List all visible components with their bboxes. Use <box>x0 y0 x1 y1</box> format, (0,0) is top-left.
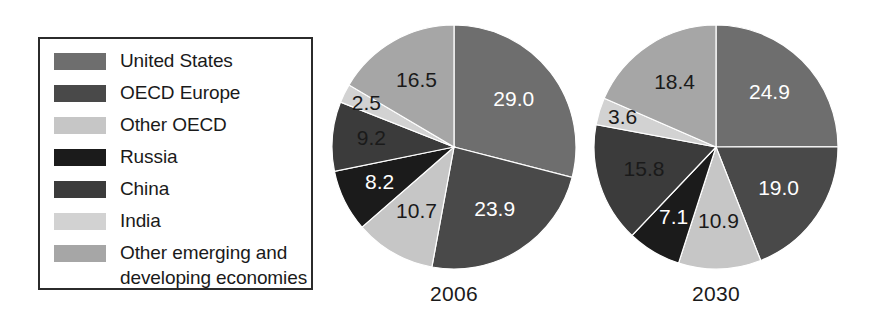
legend-item-oecd-europe: OECD Europe <box>40 80 311 112</box>
pie-slice-label: 2.5 <box>352 91 381 114</box>
legend-swatch-russia <box>54 149 106 166</box>
pie-slice-label: 16.5 <box>396 68 437 91</box>
legend-item-other-emerging: Other emerging and developing economies <box>40 240 311 296</box>
pie-slice-label: 3.6 <box>608 105 637 128</box>
legend-label-russia: Russia <box>120 144 177 169</box>
legend-item-india: India <box>40 208 311 240</box>
legend-label-other-emerging: Other emerging and developing economies <box>120 240 307 290</box>
pie-slice-label: 8.2 <box>365 170 394 193</box>
pie-caption-2006: 2006 <box>331 282 577 306</box>
pie-slice-label: 10.9 <box>698 209 739 232</box>
legend-swatch-oecd-europe <box>54 85 106 102</box>
pie-chart-2006: 29.023.910.78.29.22.516.5 <box>331 24 577 270</box>
pie-slice-label: 19.0 <box>758 176 799 199</box>
legend-label-other-oecd: Other OECD <box>120 112 227 137</box>
pie-svg-2006: 29.023.910.78.29.22.516.5 <box>331 24 577 270</box>
pie-slice-label: 10.7 <box>396 199 437 222</box>
pie-slice-label: 23.9 <box>474 197 515 220</box>
legend-item-united-states: United States <box>40 48 311 80</box>
pie-caption-2030: 2030 <box>593 282 839 306</box>
legend-label-china: China <box>120 176 169 201</box>
legend: United States OECD Europe Other OECD Rus… <box>38 37 313 290</box>
legend-swatch-china <box>54 181 106 198</box>
pie-slice-label: 9.2 <box>357 126 386 149</box>
chart-figure: United States OECD Europe Other OECD Rus… <box>0 0 878 330</box>
legend-label-india: India <box>120 208 161 233</box>
legend-swatch-india <box>54 213 106 230</box>
legend-item-china: China <box>40 176 311 208</box>
legend-swatch-other-oecd <box>54 117 106 134</box>
legend-swatch-united-states <box>54 53 106 70</box>
pie-slice-label: 15.8 <box>624 157 665 180</box>
pie-slice-label: 24.9 <box>749 80 790 103</box>
legend-item-russia: Russia <box>40 144 311 176</box>
pie-svg-2030: 24.919.010.97.115.83.618.4 <box>593 24 839 270</box>
pie-slice-label: 7.1 <box>659 205 688 228</box>
legend-label-united-states: United States <box>120 48 233 73</box>
pie-chart-2030: 24.919.010.97.115.83.618.4 <box>593 24 839 270</box>
pie-slice-label: 29.0 <box>493 87 534 110</box>
legend-swatch-other-emerging <box>54 245 106 262</box>
pie-slice-label: 18.4 <box>654 70 695 93</box>
legend-item-other-oecd: Other OECD <box>40 112 311 144</box>
legend-label-oecd-europe: OECD Europe <box>120 80 240 105</box>
